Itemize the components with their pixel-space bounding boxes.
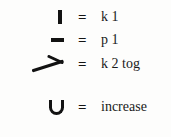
equals-sign: =: [72, 32, 92, 49]
legend-label: p 1: [92, 33, 171, 47]
legend-row: = p 1: [0, 29, 171, 51]
symbol-cell: [0, 100, 72, 115]
symbol-cell: [0, 55, 72, 73]
legend-label: k 1: [92, 10, 171, 24]
equals-sign: =: [72, 99, 92, 116]
equals-sign: =: [72, 9, 92, 26]
legend-label: increase: [92, 100, 171, 114]
legend-row: = increase: [0, 96, 171, 118]
symbol-cell: [0, 10, 72, 24]
equals-sign: =: [72, 56, 92, 73]
vertical-bar-symbol-icon: [58, 10, 62, 24]
legend-row: = k 1: [0, 6, 171, 28]
symbol-cell: [0, 38, 72, 43]
legend-row: = k 2 tog: [0, 53, 171, 75]
horizontal-dash-symbol-icon: [51, 38, 64, 42]
u-shape-symbol-icon: [49, 100, 64, 115]
legend-label: k 2 tog: [92, 57, 171, 71]
knitting-symbol-legend: = k 1 = p 1 = k 2 tog = increase: [0, 0, 171, 137]
chevron-arrow-symbol-icon: [32, 55, 64, 73]
